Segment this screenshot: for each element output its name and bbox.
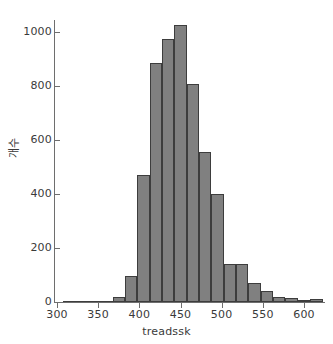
x-axis-line (54, 302, 325, 303)
histogram-bar (224, 264, 236, 302)
x-tick-label: 350 (78, 309, 118, 321)
x-tick-label: 550 (243, 309, 283, 321)
x-tick-label: 500 (202, 309, 242, 321)
histogram-bar (261, 291, 273, 302)
histogram-bar (199, 152, 211, 302)
histogram-bar (125, 276, 137, 302)
histogram-chart: 02004006008001000 개수 3003504004505005506… (0, 0, 333, 344)
histogram-bar (137, 175, 149, 302)
histogram-bar (162, 39, 174, 302)
histogram-bar (174, 25, 186, 302)
histogram-bar (211, 194, 223, 302)
x-tick-label: 600 (284, 309, 324, 321)
histogram-bar (248, 283, 260, 302)
x-tick-label: 450 (161, 309, 201, 321)
x-tick-label: 300 (37, 309, 77, 321)
histogram-bar (150, 63, 162, 302)
histogram-bar (187, 84, 199, 302)
x-axis-title: treadssk (0, 325, 333, 338)
x-tick-label: 400 (119, 309, 159, 321)
histogram-bar (236, 264, 248, 302)
bars-layer (0, 0, 333, 344)
